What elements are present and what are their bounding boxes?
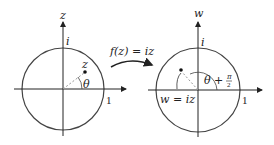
imag-unit-label-right: i (201, 36, 205, 49)
left-plane: z i z θ 1 (14, 9, 126, 136)
angle-label-main: θ + (204, 74, 223, 87)
rotation-diagram: z i z θ 1 f(z) = iz w i θ + π 2 w = iz 1 (0, 0, 274, 145)
mapping-label: f(z) = iz (109, 45, 154, 58)
angle-label-theta: θ (83, 78, 90, 91)
angle-frac-num: π (226, 73, 232, 81)
point-w (179, 68, 183, 72)
rotation-arc-small (177, 73, 181, 89)
angle-arc-left (78, 77, 82, 89)
real-unit-label-right: 1 (242, 94, 248, 106)
angle-frac-den: 2 (227, 81, 231, 89)
curved-arrow (111, 61, 152, 67)
dashed-radius-right (182, 72, 198, 90)
axis-label-z: z (59, 9, 66, 22)
point-label-z: z (81, 58, 88, 71)
point-label-w: w = iz (160, 93, 195, 106)
imag-unit-label-left: i (66, 35, 70, 48)
mapping: f(z) = iz (109, 45, 154, 67)
right-plane: w i θ + π 2 w = iz 1 (148, 7, 262, 137)
axis-label-w: w (194, 7, 204, 20)
real-unit-label-left: 1 (106, 94, 112, 106)
